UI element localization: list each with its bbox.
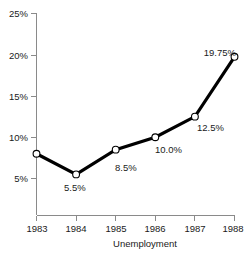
point-label-1986: 10.0% (155, 144, 182, 155)
data-point-1986 (152, 134, 159, 141)
y-tick-label-20: 20% (9, 50, 29, 61)
x-tick-label-1985: 1985 (105, 223, 126, 234)
chart-container: 25% 20% 15% 10% 5% 1983 1984 1985 1986 1… (0, 0, 251, 253)
data-point-1984 (73, 171, 80, 178)
data-point-1983 (33, 150, 40, 157)
line-chart: 25% 20% 15% 10% 5% 1983 1984 1985 1986 1… (0, 0, 251, 253)
x-axis-title: Unemployment (113, 238, 177, 249)
x-tick-label-1986: 1986 (144, 223, 165, 234)
point-label-1987: 12.5% (197, 122, 224, 133)
y-tick-label-10: 10% (9, 132, 29, 143)
point-label-1984: 5.5% (64, 182, 86, 193)
data-point-1985 (112, 146, 119, 153)
x-tick-label-1987: 1987 (184, 223, 205, 234)
point-label-1988: 19.75% (204, 47, 237, 58)
x-tick-label-1988: 1988 (222, 223, 243, 234)
y-tick-label-5: 5% (14, 173, 28, 184)
x-tick-label-1984: 1984 (65, 223, 86, 234)
y-tick-label-15: 15% (9, 91, 29, 102)
data-point-1987 (192, 113, 199, 120)
y-tick-label-25: 25% (9, 8, 29, 19)
x-tick-label-1983: 1983 (26, 223, 47, 234)
point-label-1985: 8.5% (115, 162, 137, 173)
